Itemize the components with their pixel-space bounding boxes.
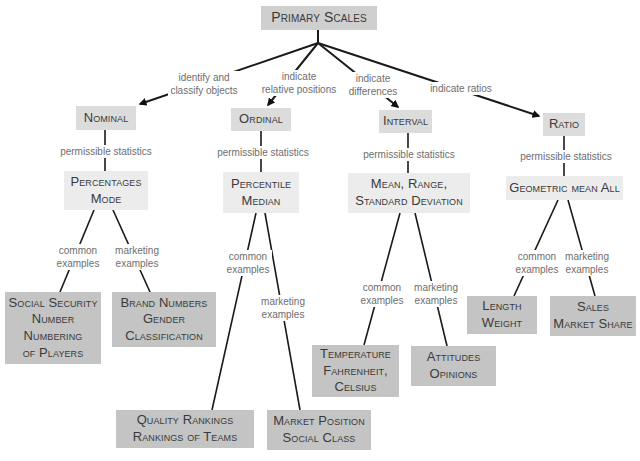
marketing-examples-node-nominal: Brand Numbers Gender Classification — [112, 292, 216, 347]
root-node-primary-scales: Primary Scales — [261, 6, 377, 30]
marketing-examples-node-ordinal: Market Position Social Class — [267, 410, 371, 450]
example-label: Attitudes Opinions — [427, 349, 481, 382]
stats-node-nominal: Percentages Mode — [64, 171, 148, 210]
common-link-label-ordinal: common examples — [224, 250, 272, 276]
stats-label: Percentages Mode — [70, 174, 141, 207]
scale-node-ordinal: Ordinal — [231, 108, 291, 131]
scale-label: Ratio — [549, 116, 579, 133]
example-label: Brand Numbers Gender Classification — [121, 295, 208, 345]
scale-label: Ordinal — [239, 111, 283, 128]
stats-link-label-ratio: permissible statistics — [517, 150, 615, 163]
marketing-link-label-interval: marketing examples — [411, 281, 461, 307]
scale-node-ratio: Ratio — [543, 113, 585, 136]
marketing-link-label-ratio: marketing examples — [562, 250, 612, 276]
example-label: Sales Market Share — [553, 299, 632, 332]
common-link-label-nominal: common examples — [54, 244, 102, 270]
stats-label: Percentile Median — [231, 176, 291, 209]
scale-node-nominal: Nominal — [76, 106, 136, 130]
example-label: Social Security Number Numbering of Play… — [9, 295, 98, 362]
example-label: Temperature Fahrenheit, Celsius — [320, 346, 391, 396]
stats-node-interval: Mean, Range, Standard Deviation — [348, 173, 470, 213]
marketing-link-label-ordinal: marketing examples — [258, 295, 308, 321]
stats-label: Geometric mean All — [509, 180, 620, 197]
example-label: Length Weight — [482, 298, 522, 331]
marketing-link-label-nominal: marketing examples — [112, 244, 162, 270]
scale-node-interval: Interval — [379, 110, 432, 133]
common-examples-node-ordinal: Quality Rankings Rankings of Teams — [116, 410, 254, 448]
relation-label-ordinal: indicate relative positions — [256, 70, 342, 96]
stats-link-label-interval: permissible statistics — [360, 148, 458, 161]
example-label: Quality Rankings Rankings of Teams — [133, 412, 238, 445]
common-link-label-ratio: common examples — [513, 250, 561, 276]
scale-label: Nominal — [84, 110, 129, 127]
common-examples-node-nominal: Social Security Number Numbering of Play… — [5, 292, 101, 364]
relation-label-interval: indicate differences — [344, 72, 402, 98]
root-label: Primary Scales — [271, 9, 366, 27]
stats-link-label-ordinal: permissible statistics — [214, 146, 312, 159]
common-link-label-interval: common examples — [358, 281, 406, 307]
marketing-examples-node-ratio: Sales Market Share — [550, 296, 636, 336]
stats-label: Mean, Range, Standard Deviation — [355, 176, 463, 209]
relation-label-nominal: identify and classify objects — [168, 71, 240, 97]
stats-node-ordinal: Percentile Median — [223, 172, 299, 213]
relation-label-ratio: indicate ratios — [428, 82, 494, 95]
common-examples-node-ratio: Length Weight — [467, 296, 537, 334]
common-examples-node-interval: Temperature Fahrenheit, Celsius — [312, 345, 399, 397]
stats-link-label-nominal: permissible statistics — [57, 145, 155, 158]
example-label: Market Position Social Class — [273, 413, 365, 446]
marketing-examples-node-interval: Attitudes Opinions — [411, 346, 496, 386]
stats-node-ratio: Geometric mean All — [506, 176, 623, 200]
scale-label: Interval — [383, 113, 428, 130]
